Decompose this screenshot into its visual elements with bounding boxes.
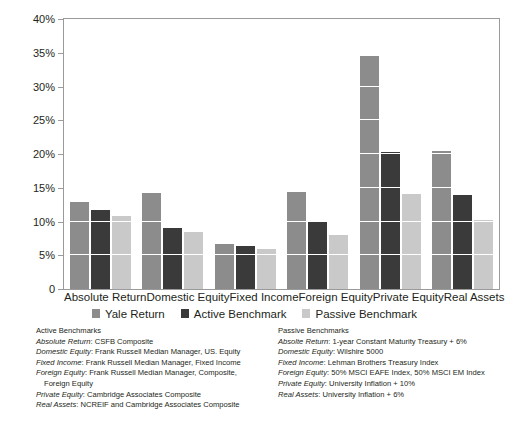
legend-swatch-icon — [92, 309, 100, 318]
gridline — [64, 52, 499, 53]
bar — [402, 194, 421, 289]
y-axis-tick-label: 20% — [33, 149, 55, 160]
footnote-line: Absolute Return: CSFB Composite — [36, 337, 262, 348]
bar-chart-figure: 05%10%15%20%25%30%35%40% Absolute Return… — [0, 0, 509, 300]
y-axis-tick-label: 25% — [33, 115, 55, 126]
legend-swatch-icon — [302, 309, 310, 318]
legend-item: Active Benchmark — [181, 308, 287, 320]
x-axis-tick-label: Private Equity — [373, 291, 444, 304]
y-axis-tick-mark — [58, 87, 63, 88]
y-axis-tick-mark — [58, 222, 63, 223]
y-axis-tick-label: 35% — [33, 47, 55, 58]
y-axis-tick-label: 0 — [49, 284, 55, 295]
footnote-column-active: Active Benchmarks Absolute Return: CSFB … — [0, 326, 262, 435]
bar-group — [287, 19, 348, 289]
footnote-line: Fixed Income: Frank Russell Median Manag… — [36, 358, 262, 369]
legend-swatch-icon — [181, 309, 189, 318]
plot-area — [64, 19, 499, 289]
footnote-lead: Real Assets — [278, 390, 318, 399]
y-axis-tick-mark — [58, 154, 63, 155]
bar-group — [360, 19, 421, 289]
y-axis-tick-mark — [58, 255, 63, 256]
legend-label: Yale Return — [105, 308, 165, 320]
footnote-text: : Wilshire 5000 — [333, 347, 383, 356]
footnote-lead: Foreign Equity — [278, 368, 327, 377]
x-axis-tick-label: Foreign Equity — [299, 291, 373, 304]
footnote-heading-passive: Passive Benchmarks — [278, 326, 509, 337]
chart-legend: Yale ReturnActive BenchmarkPassive Bench… — [0, 305, 509, 322]
gridline — [64, 254, 499, 255]
footnote-line: Fixed Income: Lehman Brothers Treasury I… — [278, 358, 509, 369]
bar — [287, 192, 306, 289]
gridline — [64, 86, 499, 87]
footnote-text: : Lehman Brothers Treasury Index — [324, 358, 439, 367]
bar — [308, 222, 327, 289]
y-axis: 05%10%15%20%25%30%35%40% — [0, 0, 63, 300]
x-axis-tick-label: Domestic Equity — [146, 291, 229, 304]
footnote-line: Absolte Return: 1-year Constant Maturity… — [278, 337, 509, 348]
gridline — [64, 153, 499, 154]
gridline — [64, 221, 499, 222]
footnote-lead: Foreign Equity — [36, 368, 85, 377]
bar-group — [215, 19, 276, 289]
bar — [70, 202, 89, 289]
y-axis-tick-label: 30% — [33, 81, 55, 92]
y-axis-tick-mark — [58, 53, 63, 54]
footnote-list-active: Absolute Return: CSFB CompositeDomestic … — [36, 337, 262, 411]
footnote-text: : NCREIF and Cambridge Associates Compos… — [76, 400, 239, 409]
footnote-text: : 50% MSCI EAFE Index, 50% MSCI EM Index — [327, 368, 485, 377]
legend-label: Passive Benchmark — [315, 308, 417, 320]
y-axis-tick-mark — [58, 188, 63, 189]
footnote-text: : 1-year Constant Maturity Treasury + 6% — [328, 337, 467, 346]
legend-label: Active Benchmark — [194, 308, 287, 320]
footnote-lead: Absolute Return — [36, 337, 90, 346]
y-axis-tick-label: 10% — [33, 216, 55, 227]
gridline — [64, 119, 499, 120]
footnote-lead: Fixed Income — [36, 358, 82, 367]
y-axis-tick-mark — [58, 289, 63, 290]
x-axis-tick-label: Real Assets — [444, 291, 505, 304]
y-axis-tick-mark — [58, 120, 63, 121]
footnote-line: Foreign Equity: 50% MSCI EAFE Index, 50%… — [278, 368, 509, 379]
footnote-lead: Private Equity — [278, 379, 325, 388]
footnote-text: : University Inflation + 6% — [318, 390, 404, 399]
bar — [142, 193, 161, 289]
y-axis-tick-mark — [58, 19, 63, 20]
footnote-text: : Cambridge Associates Composite — [83, 390, 201, 399]
footnote-lead: Domestic Equity — [36, 347, 91, 356]
footnote-lead: Absolte Return — [278, 337, 328, 346]
y-axis-tick-label: 40% — [33, 14, 55, 25]
bar-group — [70, 19, 131, 289]
footnote-line: Real Assets: NCREIF and Cambridge Associ… — [36, 400, 262, 411]
footnote-heading-active: Active Benchmarks — [36, 326, 262, 337]
footnote-lead: Real Assets — [36, 400, 76, 409]
footnote-line: Foreign Equity: Frank Russell Median Man… — [36, 368, 262, 379]
footnote-text: : Frank Russell Median Manager, Fixed In… — [82, 358, 241, 367]
footnote-lead: Fixed Income — [278, 358, 324, 367]
bar-group — [142, 19, 203, 289]
footnote-line: Domestic Equity: Frank Russell Median Ma… — [36, 347, 262, 358]
x-axis: Absolute ReturnDomestic EquityFixed Inco… — [64, 291, 499, 304]
y-axis-tick-label: 5% — [39, 250, 55, 261]
footnote-line: Real Assets: University Inflation + 6% — [278, 390, 509, 401]
footnote-text: : Frank Russell Median Manager, US. Equi… — [91, 347, 240, 356]
footnote-column-passive: Passive Benchmarks Absolte Return: 1-yea… — [262, 326, 509, 435]
bar — [91, 210, 110, 289]
footnote-line: Private Equity: University Inflation + 1… — [278, 379, 509, 390]
x-axis-tick-label: Fixed Income — [230, 291, 299, 304]
footnote-line: Private Equity: Cambridge Associates Com… — [36, 390, 262, 401]
footnote-lead: Domestic Equity — [278, 347, 333, 356]
x-axis-tick-label: Absolute Return — [64, 291, 146, 304]
bar-group — [432, 19, 493, 289]
bar — [329, 235, 348, 289]
y-axis-tick-label: 15% — [33, 182, 55, 193]
footnote-line-continuation: Foreign Equity — [36, 379, 262, 390]
footnotes: Active Benchmarks Absolute Return: CSFB … — [0, 326, 509, 435]
bar — [163, 228, 182, 289]
footnote-list-passive: Absolte Return: 1-year Constant Maturity… — [278, 337, 509, 401]
bar — [453, 195, 472, 289]
bar — [112, 216, 131, 289]
legend-item: Yale Return — [92, 308, 165, 320]
bar — [236, 246, 255, 289]
footnote-text: : University Inflation + 10% — [325, 379, 415, 388]
